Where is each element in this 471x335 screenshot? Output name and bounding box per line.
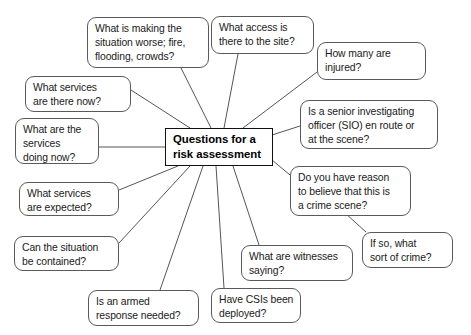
- edge-situation-worse: [181, 68, 211, 128]
- question-node-services-doing-now-line: What are the: [23, 123, 92, 137]
- edge-services-expected: [119, 166, 178, 190]
- question-node-armed-response-line: response needed?: [96, 309, 192, 323]
- question-node-csis-deployed-line: deployed?: [219, 307, 294, 321]
- question-node-senior-investigating-officer-line: Is a senior investigating: [308, 105, 431, 119]
- question-node-csis-deployed-line: Have CSIs been: [219, 293, 294, 307]
- question-node-situation-worse-line: What is making the: [95, 22, 202, 36]
- question-node-crime-scene-reason[interactable]: Do you have reasonto believe that this i…: [290, 166, 411, 216]
- edge-site-access: [224, 54, 238, 128]
- question-node-situation-contained-line: Can the situation: [22, 241, 112, 255]
- edge-contained: [119, 166, 190, 243]
- question-node-witnesses-saying-line: What are witnesses: [249, 250, 346, 264]
- question-node-armed-response[interactable]: Is an armedresponse needed?: [88, 290, 199, 326]
- question-node-site-access[interactable]: What access isthere to the site?: [211, 16, 314, 54]
- question-node-site-access-line: there to the site?: [219, 35, 307, 49]
- question-node-services-there-now-line: are there now?: [33, 95, 124, 109]
- question-node-services-there-now-line: What services: [33, 81, 124, 95]
- question-node-situation-worse[interactable]: What is making thesituation worse; fire,…: [87, 17, 209, 68]
- question-node-services-doing-now-line: doing now?: [23, 151, 92, 165]
- question-node-sort-of-crime[interactable]: If so, whatsort of crime?: [362, 232, 453, 268]
- question-node-armed-response-line: Is an armed: [96, 295, 192, 309]
- central-topic-node[interactable]: Questions for arisk assessment: [165, 128, 273, 166]
- question-node-services-doing-now[interactable]: What are theservicesdoing now?: [15, 118, 99, 164]
- question-node-crime-scene-reason-line: a crime scene?: [298, 199, 404, 213]
- edge-csis: [216, 166, 224, 288]
- question-node-how-many-injured-line: How many are: [325, 47, 419, 61]
- edge-armed-response: [160, 166, 203, 290]
- question-node-sort-of-crime-line: sort of crime?: [370, 251, 446, 265]
- question-node-senior-investigating-officer-line: officer (SIO) en route or: [308, 119, 431, 133]
- question-node-crime-scene-reason-line: to believe that this is: [298, 185, 404, 199]
- edge-witnesses: [233, 166, 259, 245]
- question-node-services-expected-line: What services: [27, 187, 112, 201]
- mind-map-diagram: Questions for arisk assessmentWhat is ma…: [0, 0, 471, 335]
- question-node-situation-worse-line: flooding, crowds?: [95, 50, 202, 64]
- question-node-how-many-injured[interactable]: How many areinjured?: [317, 42, 426, 80]
- question-node-csis-deployed[interactable]: Have CSIs beendeployed?: [211, 288, 301, 323]
- question-node-sort-of-crime-line: If so, what: [370, 237, 446, 251]
- question-node-situation-worse-line: situation worse; fire,: [95, 36, 202, 50]
- question-node-situation-contained-line: be contained?: [22, 255, 112, 269]
- question-node-services-expected[interactable]: What servicesare expected?: [19, 182, 119, 216]
- question-node-senior-investigating-officer-line: at the scene?: [308, 133, 431, 147]
- question-node-site-access-line: What access is: [219, 21, 307, 35]
- question-node-witnesses-saying[interactable]: What are witnessessaying?: [241, 245, 353, 281]
- question-node-witnesses-saying-line: saying?: [249, 264, 346, 278]
- question-node-how-many-injured-line: injured?: [325, 61, 419, 75]
- edge-services-there: [131, 90, 190, 128]
- edge-crime-scene: [272, 160, 290, 175]
- question-node-services-expected-line: are expected?: [27, 201, 112, 215]
- question-node-services-doing-now-line: services: [23, 137, 92, 151]
- question-node-crime-scene-reason-line: Do you have reason: [298, 171, 404, 185]
- question-node-senior-investigating-officer[interactable]: Is a senior investigatingofficer (SIO) e…: [300, 100, 438, 149]
- question-node-services-there-now[interactable]: What servicesare there now?: [25, 76, 131, 112]
- central-topic-node-line: Questions for a: [173, 132, 266, 147]
- edge-sio: [272, 126, 300, 135]
- central-topic-node-line: risk assessment: [173, 147, 266, 162]
- question-node-situation-contained[interactable]: Can the situationbe contained?: [14, 236, 119, 271]
